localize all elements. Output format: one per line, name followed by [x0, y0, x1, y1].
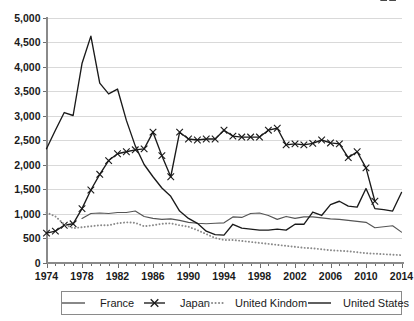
chart-canvas: 05001,0001,5002,0002,5003,0003,5004,0004…: [0, 0, 414, 321]
y-axis-tick-label: 3,500: [14, 85, 40, 97]
data-point-marker-x: [79, 205, 86, 212]
x-axis-tick-label: 2010: [354, 270, 378, 282]
x-axis-tick-label: 1986: [141, 270, 165, 282]
x-axis-tick-label: 2002: [283, 270, 307, 282]
legend-item-label: France: [100, 297, 134, 309]
y-axis-tick-label: 0: [35, 257, 41, 269]
y-axis-tick-label: 4,500: [14, 36, 40, 48]
x-axis-tick-label: 1994: [212, 270, 236, 282]
y-axis-tick-label: 1,000: [14, 208, 40, 220]
series-line-japan: [47, 128, 375, 233]
line-chart: 05001,0001,5002,0002,5003,0003,5004,0004…: [0, 0, 414, 321]
series-line-united-states: [47, 36, 402, 235]
data-point-marker-x: [96, 171, 103, 178]
data-point-marker-x: [150, 129, 157, 136]
y-axis-tick-label: 1,500: [14, 183, 40, 195]
y-axis-tick-label: 5,000: [14, 12, 40, 24]
y-axis-labels-group: 05001,0001,5002,0002,5003,0003,5004,0004…: [14, 12, 40, 269]
data-point-marker-x: [221, 127, 228, 134]
legend-item-label: United States: [343, 297, 410, 309]
axis-lines-group: [47, 17, 404, 264]
y-axis-tick-label: 4,000: [14, 61, 40, 73]
x-axis-tick-label: 1982: [106, 270, 130, 282]
y-axis-ticks-group: [43, 19, 47, 264]
data-point-marker-x: [105, 157, 112, 164]
data-point-marker-x: [354, 148, 361, 155]
x-axis-tick-label: 1978: [70, 270, 94, 282]
x-axis-labels-group: 1974197819821986199019941998200220062010…: [35, 270, 414, 282]
data-series-group: [43, 0, 401, 255]
y-axis-tick-label: 2,000: [14, 159, 40, 171]
x-axis-tick-label: 1990: [177, 270, 201, 282]
data-point-marker-x: [159, 152, 166, 159]
y-axis-tick-label: 500: [23, 232, 41, 244]
x-axis-tick-label: 1998: [248, 270, 272, 282]
x-axis-tick-label: 2006: [319, 270, 343, 282]
x-axis-tick-label: 2014: [390, 270, 414, 282]
y-axis-tick-label: 3,000: [14, 110, 40, 122]
series-line-united-kindom: [47, 213, 402, 256]
y-axis-tick-label: 2,500: [14, 134, 40, 146]
x-axis-tick-label: 1974: [35, 270, 59, 282]
series-markers-japan: [43, 0, 396, 236]
legend-item-label: United Kindom: [235, 297, 307, 309]
data-point-marker-x: [345, 154, 352, 161]
chart-legend: FranceJapanUnited KindomUnited States: [62, 292, 410, 315]
